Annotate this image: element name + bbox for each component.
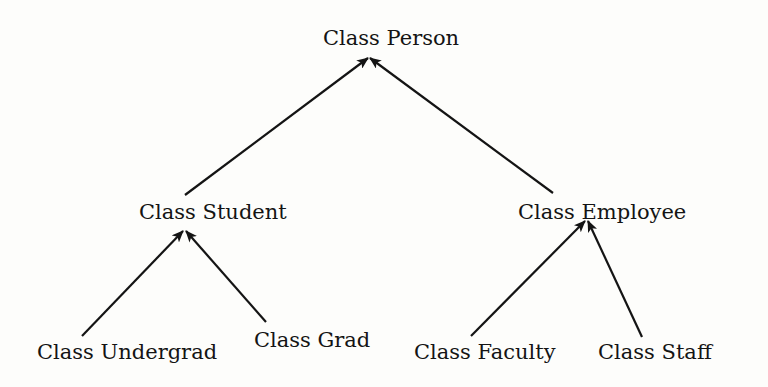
edges-layer [0, 0, 768, 387]
edge-grad-to-student [186, 231, 266, 322]
node-class-grad: Class Grad [254, 330, 370, 351]
node-class-staff: Class Staff [598, 342, 712, 363]
edge-employee-to-person [370, 58, 553, 193]
node-class-employee: Class Employee [518, 202, 686, 223]
node-class-person: Class Person [323, 28, 459, 49]
edge-staff-to-employee [588, 221, 642, 337]
edge-faculty-to-employee [471, 221, 585, 336]
node-class-faculty: Class Faculty [414, 342, 556, 363]
node-class-undergrad: Class Undergrad [37, 342, 217, 363]
node-class-student: Class Student [139, 202, 287, 223]
edge-student-to-person [185, 58, 368, 195]
edge-undergrad-to-student [82, 231, 183, 336]
